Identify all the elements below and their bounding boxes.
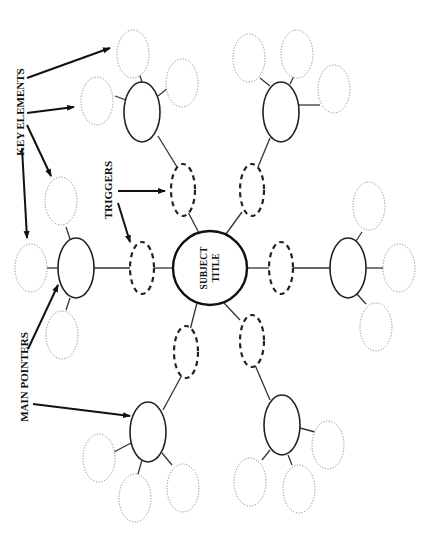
key-element-oval xyxy=(81,77,113,125)
trigger-oval xyxy=(171,164,195,216)
main-pointers-label: MAIN POINTERS xyxy=(18,332,30,422)
trigger-oval xyxy=(269,242,293,294)
key-elements-label: KEY ELEMENTS xyxy=(14,68,26,155)
key-element-oval xyxy=(383,244,415,292)
key-element-oval xyxy=(167,464,199,512)
key-element-oval xyxy=(360,303,392,351)
main-pointer-oval xyxy=(130,402,166,462)
main-pointer-oval xyxy=(263,82,299,142)
trigger-oval xyxy=(240,315,264,367)
key-element-oval xyxy=(312,421,344,469)
key-element-oval xyxy=(15,244,47,292)
key-element-oval xyxy=(234,458,266,506)
key-element-oval xyxy=(119,474,151,522)
key-element-oval xyxy=(166,59,198,107)
subject-title-node: SUBJECT TITLE xyxy=(173,231,247,305)
key-element-oval xyxy=(318,65,350,113)
key-element-oval xyxy=(233,34,265,82)
key-element-oval xyxy=(83,434,115,482)
subject-title-line2: TITLE xyxy=(211,253,221,282)
key-element-oval xyxy=(46,311,78,359)
key-element-oval xyxy=(353,182,385,230)
trigger-oval xyxy=(240,164,264,216)
subject-title-line1: SUBJECT xyxy=(199,246,209,289)
trigger-oval xyxy=(130,242,154,294)
trigger-oval xyxy=(174,326,198,378)
key-element-oval xyxy=(283,465,315,513)
main-pointer-oval xyxy=(330,238,366,298)
key-element-oval xyxy=(117,30,149,78)
main-pointer-oval xyxy=(124,82,160,142)
triggers-label: TRIGGERS xyxy=(102,161,114,219)
main-pointer-oval xyxy=(58,238,94,298)
key-element-oval xyxy=(281,30,313,78)
key-element-oval xyxy=(45,177,77,225)
main-pointer-oval xyxy=(264,395,300,455)
mind-map-diagram: SUBJECT TITLE KEY ELEMENTS TRIGGERS MAIN… xyxy=(0,0,435,542)
